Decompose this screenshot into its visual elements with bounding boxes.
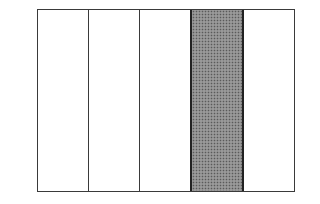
fraction-part-5 [244, 10, 294, 191]
fraction-part-3 [140, 10, 191, 191]
fraction-bar-diagram [37, 9, 295, 192]
fraction-part-4-shaded [190, 10, 244, 191]
fraction-part-2 [89, 10, 140, 191]
fraction-part-1 [38, 10, 89, 191]
